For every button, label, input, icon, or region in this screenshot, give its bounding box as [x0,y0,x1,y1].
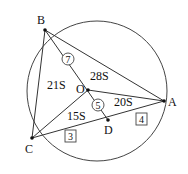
label-c: C [25,142,33,156]
boxed-ratio-cd: 3 [68,131,73,142]
boxed-ratio-da: 4 [139,114,144,125]
area-label-cod: 15S [67,109,86,123]
label-o: O [76,82,85,96]
point-c [30,136,34,140]
point-o [86,88,90,92]
area-label-boc: 21S [47,78,66,92]
circled-ratio-bo: 7 [66,54,71,65]
segment-bc [32,30,45,138]
circled-ratio-od: 5 [96,100,101,111]
label-a: A [168,95,177,109]
point-d [106,118,110,122]
label-b: B [37,13,45,27]
point-b [43,28,47,32]
label-d: D [104,123,113,137]
point-a [162,99,166,103]
area-label-boa: 28S [90,69,109,83]
area-label-aod: 20S [114,95,133,109]
geometry-diagram: B A C O D 28S 21S 20S 15S 7 5 3 4 [0,0,188,174]
